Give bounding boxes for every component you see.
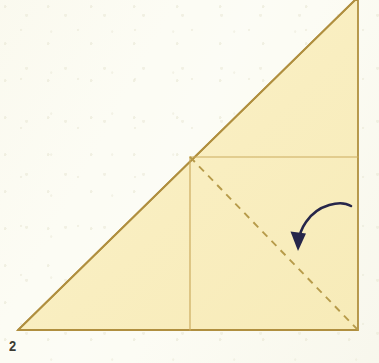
step-number-label: 2 (9, 339, 16, 353)
origami-diagram-canvas (0, 0, 379, 363)
origami-diagram-figure: 2 (0, 0, 379, 363)
